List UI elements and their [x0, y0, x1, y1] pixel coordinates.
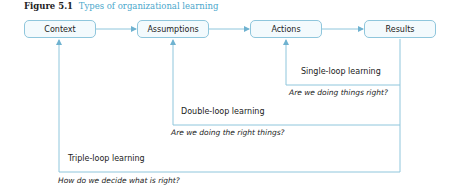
actions-label: Actions	[271, 25, 300, 34]
results-label: Results	[386, 25, 415, 34]
context-box: Context	[24, 20, 96, 38]
assumptions-label: Assumptions	[147, 25, 198, 34]
results-box: Results	[364, 20, 436, 38]
double-loop-question: Are we doing the right things?	[171, 128, 285, 137]
context-label: Context	[44, 25, 75, 34]
triple-loop-question: How do we decide what is right?	[58, 176, 180, 185]
triple-loop-label: Triple-loop learning	[68, 154, 145, 163]
assumptions-box: Assumptions	[137, 20, 209, 38]
double-loop-label: Double-loop learning	[181, 107, 265, 116]
single-loop-question: Are we doing things right?	[289, 88, 388, 97]
actions-box: Actions	[250, 20, 322, 38]
single-loop-label: Single-loop learning	[301, 67, 381, 76]
